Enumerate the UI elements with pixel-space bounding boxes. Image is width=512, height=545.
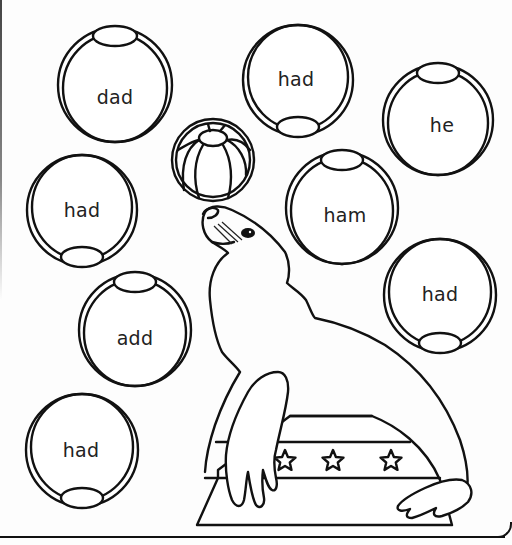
- ball-patch: [277, 117, 319, 137]
- beach-ball: [172, 119, 254, 201]
- illustration: [0, 0, 512, 545]
- word-had: had: [63, 439, 100, 461]
- seal-eye: [241, 228, 255, 238]
- page-bottom-border: [0, 536, 505, 538]
- word-had: had: [422, 283, 459, 305]
- ball-patch: [321, 150, 363, 170]
- word-had: had: [64, 199, 101, 221]
- word-had: had: [278, 68, 315, 90]
- word-ham: ham: [323, 204, 366, 226]
- word-add: add: [117, 327, 154, 349]
- ball-patch: [93, 26, 137, 46]
- ball-patch: [417, 63, 459, 83]
- ball-patch: [61, 247, 103, 267]
- coloring-worksheet: dad had he had ham add had had: [0, 0, 512, 545]
- ball-dad: [58, 26, 172, 142]
- ball-patch: [419, 333, 461, 353]
- ball-patch: [114, 272, 156, 292]
- word-dad: dad: [97, 86, 134, 108]
- word-he: he: [430, 114, 454, 136]
- eye-highlight: [249, 231, 251, 233]
- beach-ball-cap: [199, 130, 227, 146]
- ball-patch: [61, 488, 103, 508]
